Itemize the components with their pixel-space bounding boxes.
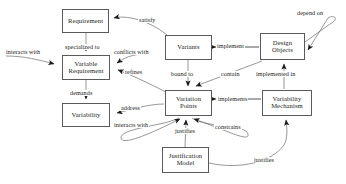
node-justification-model-label: Justification Model: [168, 153, 204, 167]
edge-label-contain: contain: [220, 71, 241, 77]
edge-label-implement: implement: [216, 43, 245, 49]
node-design-objects[interactable]: Design Objects: [260, 33, 305, 60]
edge-label-address: address: [120, 105, 141, 111]
edge-label-refines: refines: [124, 69, 143, 75]
edge-label-demands: demands: [69, 90, 93, 96]
node-variants-label: Variants: [176, 44, 200, 51]
edge-label-justifies-vm: justifies: [253, 157, 275, 163]
edge-label-conflicts-with: conflicts with: [113, 49, 150, 55]
edge-label-implemented-in: implemented in: [255, 71, 296, 77]
node-variability-label: Variability: [71, 112, 102, 119]
edge-depend-on-line: [305, 17, 335, 50]
node-variability-mechanism-label: Variability Mechanism: [270, 96, 304, 110]
node-requirement[interactable]: Requirement: [62, 9, 109, 33]
node-justification-model[interactable]: Justification Model: [162, 147, 209, 173]
node-requirement-label: Requirement: [67, 18, 104, 25]
edge-label-constrains: constrains: [214, 124, 242, 130]
edge-label-specialized-to: specialized to: [64, 44, 101, 50]
node-variability[interactable]: Variability: [62, 103, 110, 127]
node-design-objects-label: Design Objects: [271, 40, 294, 54]
edge-label-implements: implements: [217, 96, 248, 102]
node-variable-requirement[interactable]: Variable Requirement: [62, 55, 110, 80]
edge-label-bound-to: bound to: [170, 71, 194, 77]
node-variants[interactable]: Variants: [165, 35, 212, 60]
edge-interacts-with-1-line: [6, 56, 54, 64]
node-variation-points[interactable]: Variation Points: [165, 90, 212, 116]
node-variable-requirement-label: Variable Requirement: [67, 61, 104, 75]
node-variability-mechanism[interactable]: Variability Mechanism: [262, 90, 312, 116]
node-variation-points-label: Variation Points: [175, 96, 202, 110]
edge-conflicts-with-line: [117, 54, 146, 63]
edge-label-depend-on: depend on: [296, 10, 324, 16]
edge-label-satisfy: satisfy: [138, 17, 157, 23]
variability-meta-model-diagram: Requirement Variable Requirement Variabi…: [0, 0, 346, 184]
edge-label-justifies-vp: justifies: [174, 128, 196, 134]
edge-label-interacts-with-1: interacts with: [5, 49, 41, 55]
edge-label-interacts-with-2: interacts with: [113, 122, 149, 128]
